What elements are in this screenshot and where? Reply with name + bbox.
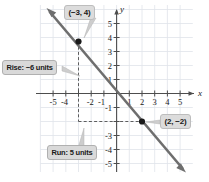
y-tick-label: -5 — [105, 159, 112, 169]
run-callout: Run: 5 units — [47, 145, 97, 160]
y-tick-label: 5 — [108, 19, 112, 29]
data-point-2 — [139, 118, 145, 124]
x-tick-label: -4 — [61, 97, 69, 107]
leader-rise — [62, 66, 80, 76]
slope-graph-figure: -5 -4 -2 -1 1 2 3 4 5 5 4 3 2 1 -1 -3 -4… — [0, 0, 209, 182]
leader-point1 — [84, 18, 96, 38]
x-axis-arrow — [189, 91, 195, 96]
x-tick-label: 3 — [153, 97, 157, 107]
data-point-1 — [75, 38, 81, 44]
point-label-callout-2: (2, −2) — [160, 114, 191, 129]
y-tick-label: -3 — [105, 131, 112, 141]
x-tick-label: 2 — [140, 97, 144, 107]
point-label-callout-1: (−3, 4) — [64, 5, 95, 20]
x-axis-label: x — [197, 88, 202, 98]
y-tick-label: -1 — [105, 103, 112, 113]
rise-callout: Rise: −6 units — [2, 60, 57, 75]
y-tick-label: 2 — [108, 61, 112, 71]
coordinate-plane: -5 -4 -2 -1 1 2 3 4 5 5 4 3 2 1 -1 -3 -4… — [0, 0, 209, 182]
x-tick-label: -5 — [50, 97, 57, 107]
x-tick-labels: -5 -4 -2 -1 1 2 3 4 5 — [50, 97, 183, 107]
x-tick-label: -2 — [87, 97, 94, 107]
leader-point2 — [146, 120, 160, 124]
y-axis-label: y — [119, 4, 124, 14]
x-tick-label: 5 — [178, 97, 182, 107]
y-tick-label: 3 — [108, 47, 112, 57]
y-tick-label: -4 — [105, 145, 113, 155]
x-tick-label: 4 — [165, 97, 170, 107]
